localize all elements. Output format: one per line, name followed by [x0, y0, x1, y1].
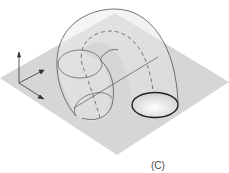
tube-diagram: [0, 0, 229, 173]
base-opening-ellipse: [132, 93, 178, 118]
figure-label: (C): [151, 160, 165, 171]
